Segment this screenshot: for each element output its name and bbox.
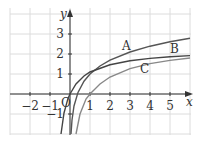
curve-c	[76, 58, 190, 134]
x-tick-label: −2	[21, 99, 39, 113]
curve-label-b: B	[170, 42, 179, 56]
y-tick-label: 2	[56, 47, 64, 61]
grid	[10, 8, 191, 135]
x-tick-label: 4	[146, 99, 154, 113]
x-tick-label: 3	[126, 99, 134, 113]
x-axis-label: x	[186, 95, 193, 109]
y-tick-label: 3	[56, 27, 64, 41]
y-tick-label: 1	[56, 67, 64, 81]
curve-b	[61, 56, 190, 134]
y-axis-label: y	[59, 7, 67, 21]
x-tick-label: 2	[106, 99, 114, 113]
function-graph: −2−112345−1123OxyABC	[0, 0, 201, 147]
y-axis-arrow-icon	[67, 9, 73, 17]
curve-label-a: A	[121, 39, 131, 53]
curve-label-c: C	[140, 62, 149, 76]
x-tick-label: 5	[166, 99, 174, 113]
x-tick-label: 1	[86, 99, 94, 113]
